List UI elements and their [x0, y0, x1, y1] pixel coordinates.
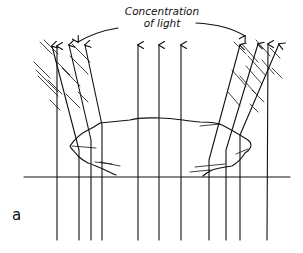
- ray: [267, 44, 268, 240]
- ray: [226, 44, 258, 240]
- annotation-line-1: Concentration: [112, 6, 212, 17]
- figure-label: a: [12, 210, 26, 221]
- ray: [52, 46, 79, 240]
- light-refraction-diagram: [0, 0, 303, 253]
- object-outline: [70, 118, 251, 176]
- annotation-line-2: of light: [112, 18, 212, 29]
- annotation-arrow-left: [78, 28, 118, 42]
- ray: [85, 45, 102, 240]
- light-rays: [52, 44, 279, 240]
- object-shading: [72, 124, 248, 172]
